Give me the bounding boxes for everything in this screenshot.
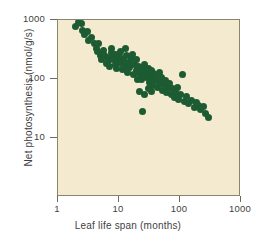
data-point [78, 20, 85, 27]
x-axis-tick [179, 196, 180, 202]
plot-area [57, 19, 240, 196]
data-point [122, 45, 129, 52]
x-axis-tick-label: 10 [98, 203, 138, 214]
scatter-plot-figure: 101001000 1101001000 Leaf life span (mon… [0, 0, 256, 241]
data-point [139, 108, 146, 115]
x-axis-title: Leaf life span (months) [0, 220, 256, 231]
x-axis-tick [118, 196, 119, 202]
y-axis-title: Net photosynthesis (nmol/g/s) [23, 8, 34, 188]
x-axis-tick-label: 100 [159, 203, 199, 214]
data-point [129, 51, 136, 58]
data-point [205, 114, 212, 121]
data-point [177, 91, 184, 98]
data-point [174, 84, 181, 91]
x-axis-tick-label: 1000 [220, 203, 256, 214]
data-point [95, 40, 102, 47]
data-point [179, 71, 186, 78]
x-axis-tick [57, 196, 58, 202]
y-axis-tick [50, 19, 57, 20]
y-axis-tick [50, 78, 57, 79]
x-axis-tick [240, 196, 241, 202]
x-axis-tick-label: 1 [37, 203, 77, 214]
data-point [148, 88, 155, 95]
y-axis-tick-label: 10 [34, 132, 45, 142]
y-axis-tick [50, 137, 57, 138]
data-points-layer [58, 20, 239, 195]
